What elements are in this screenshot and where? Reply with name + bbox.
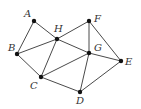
vertex-label-a: A xyxy=(23,8,31,19)
edge-h-c xyxy=(41,39,57,77)
vertex-b xyxy=(15,52,19,56)
edge-c-d xyxy=(41,77,80,92)
edge-g-c xyxy=(41,53,89,77)
vertex-h xyxy=(55,37,59,41)
graph-diagram: AHFBGECD xyxy=(0,0,141,109)
graph-labels: AHFBGECD xyxy=(7,8,133,106)
vertex-label-d: D xyxy=(75,95,84,106)
vertex-label-g: G xyxy=(94,42,102,53)
edge-h-g xyxy=(57,39,89,53)
vertex-label-h: H xyxy=(53,23,63,34)
vertex-g xyxy=(87,51,91,55)
vertex-d xyxy=(78,90,82,94)
vertex-label-f: F xyxy=(93,13,102,24)
vertex-label-e: E xyxy=(124,56,133,67)
vertex-c xyxy=(39,75,43,79)
edge-b-c xyxy=(17,54,41,77)
vertex-f xyxy=(87,19,91,23)
vertex-a xyxy=(32,19,36,23)
vertex-label-c: C xyxy=(30,80,38,91)
edge-b-h xyxy=(17,39,57,54)
vertex-e xyxy=(119,59,123,63)
edge-f-e xyxy=(89,21,121,61)
vertex-label-b: B xyxy=(7,42,15,53)
